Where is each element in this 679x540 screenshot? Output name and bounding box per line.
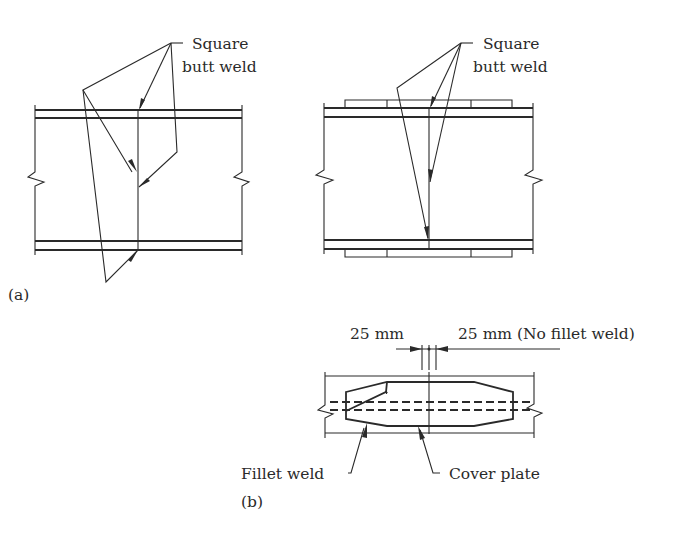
weld-label-left-2: butt weld: [182, 58, 257, 76]
dim-label-right: 25 mm (No fillet weld): [458, 325, 635, 343]
panel-b-plan: [318, 372, 542, 438]
panel-a-right-beam: [316, 100, 542, 257]
cover-plate-callout: Cover plate: [449, 465, 540, 483]
weld-detail-diagram: Square butt weld (a) Square butt weld: [0, 0, 679, 540]
weld-label-right-1: Square: [483, 35, 539, 53]
weld-label-left-1: Square: [192, 35, 248, 53]
panel-a-label: (a): [8, 286, 29, 304]
weld-label-right-2: butt weld: [473, 58, 548, 76]
dim-label-left: 25 mm: [350, 325, 404, 343]
panel-b-label: (b): [241, 493, 263, 511]
panel-b-dimensions: [396, 345, 560, 370]
panel-b-callouts: [348, 423, 440, 473]
panel-a-left-beam: [28, 105, 249, 255]
fillet-weld-callout: Fillet weld: [241, 465, 324, 483]
panel-a-right-leaders: [397, 43, 473, 240]
panel-a-left-leaders: [83, 43, 183, 282]
